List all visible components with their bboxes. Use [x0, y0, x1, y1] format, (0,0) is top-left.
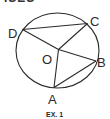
label-o: O	[42, 52, 52, 67]
chords-and-radii	[23, 24, 97, 88]
segment-do	[23, 30, 59, 50]
figure-caption: EX. 1	[46, 111, 63, 118]
segment-oc	[59, 24, 88, 50]
label-a: A	[48, 92, 57, 107]
segment-dc	[23, 24, 88, 30]
segment-ob	[59, 50, 97, 62]
circle-diagram: D C O B A EX. 1	[0, 0, 110, 119]
label-d: D	[8, 26, 17, 41]
label-c: C	[90, 14, 99, 29]
label-b: B	[97, 55, 106, 70]
segment-oa	[54, 50, 59, 88]
